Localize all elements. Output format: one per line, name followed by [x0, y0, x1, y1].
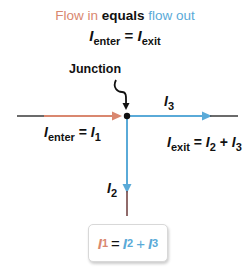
equals-sign: =	[79, 124, 87, 140]
kirchhoff-equation-box: I1 = I2 + I3	[88, 224, 168, 262]
junction-label: Junction	[69, 62, 121, 76]
sub-3: 3	[168, 100, 174, 112]
junction-pointer-arrow	[115, 80, 126, 104]
sub-exit: exit	[171, 141, 190, 153]
label-i-exit: Iexit = I2 + I3	[167, 134, 242, 150]
plus-sign: +	[136, 235, 145, 252]
junction-dot	[124, 113, 130, 119]
equals-sign: =	[111, 235, 120, 252]
label-i3: I3	[164, 93, 174, 109]
label-i-enter: Ienter = I1	[44, 124, 101, 140]
sub-enter: enter	[48, 131, 75, 143]
plus-sign: +	[220, 134, 228, 150]
sub-3: 3	[236, 141, 242, 153]
label-i2: I2	[107, 180, 117, 196]
junction-pointer-arrowhead-icon	[123, 103, 130, 110]
equals-sign: =	[194, 134, 202, 150]
sub-2: 2	[111, 187, 117, 199]
sub-2: 2	[210, 141, 216, 153]
inflow-arrow-icon	[112, 112, 122, 121]
sub-1: 1	[95, 131, 101, 143]
